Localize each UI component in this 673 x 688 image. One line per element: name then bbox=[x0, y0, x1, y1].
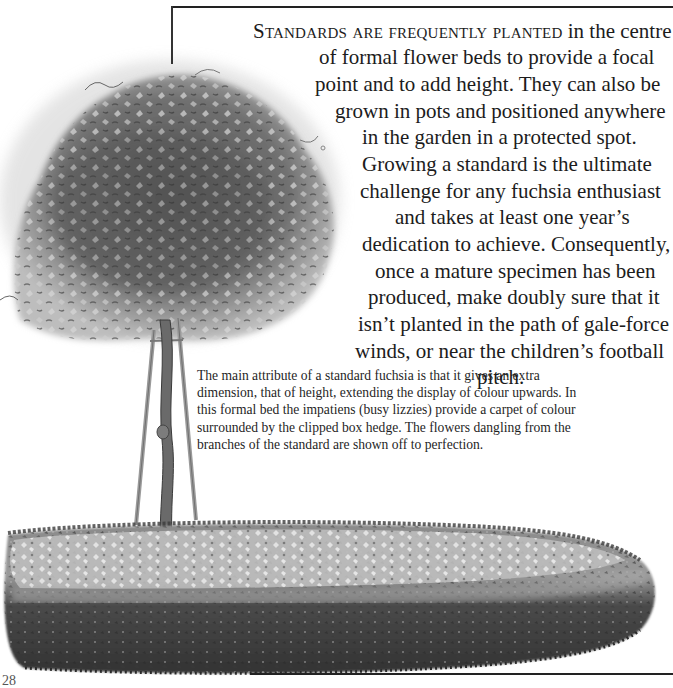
body-line-2: of formal flower beds to provide a focal bbox=[319, 44, 654, 70]
body-line-6: Growing a standard is the ultimate bbox=[362, 151, 652, 177]
caption-line-3: this formal bed the impatiens (busy lizz… bbox=[197, 401, 667, 418]
frame-bottom-rule bbox=[250, 673, 673, 675]
body-line-12: isn’t planted in the path of gale-force bbox=[358, 311, 669, 337]
body-line-13: winds, or near the children’s football bbox=[355, 338, 664, 364]
body-line-1: Standards are frequently planted in the … bbox=[253, 18, 672, 44]
caption-line-1: The main attribute of a standard fuchsia… bbox=[197, 367, 667, 384]
body-line-10: once a mature specimen has been bbox=[375, 258, 655, 284]
caption-line-5: branches of the standard are shown off t… bbox=[197, 436, 667, 453]
body-line-3: point and to add height. They can also b… bbox=[315, 71, 660, 97]
caption-line-2: dimension, that of height, extending the… bbox=[197, 384, 667, 401]
body-line-7: challenge for any fuchsia enthusiast bbox=[360, 178, 661, 204]
illustration-caption: The main attribute of a standard fuchsia… bbox=[197, 367, 667, 453]
page-number: 28 bbox=[2, 674, 16, 688]
caption-line-4: surrounded by the clipped box hedge. The… bbox=[197, 419, 667, 436]
body-line-11: produced, make doubly sure that it bbox=[368, 284, 660, 310]
frame-top-rule bbox=[171, 6, 673, 8]
frame-left-rule bbox=[171, 6, 173, 64]
body-line-4: grown in pots and positioned anywhere bbox=[335, 98, 666, 124]
lead-in-smallcaps: Standards are frequently planted bbox=[253, 19, 562, 43]
body-line-5: in the garden in a protected spot. bbox=[362, 124, 637, 150]
body-line-8: and takes at least one year’s bbox=[395, 204, 630, 230]
body-line-9: dedication to achieve. Consequently, bbox=[362, 231, 670, 257]
